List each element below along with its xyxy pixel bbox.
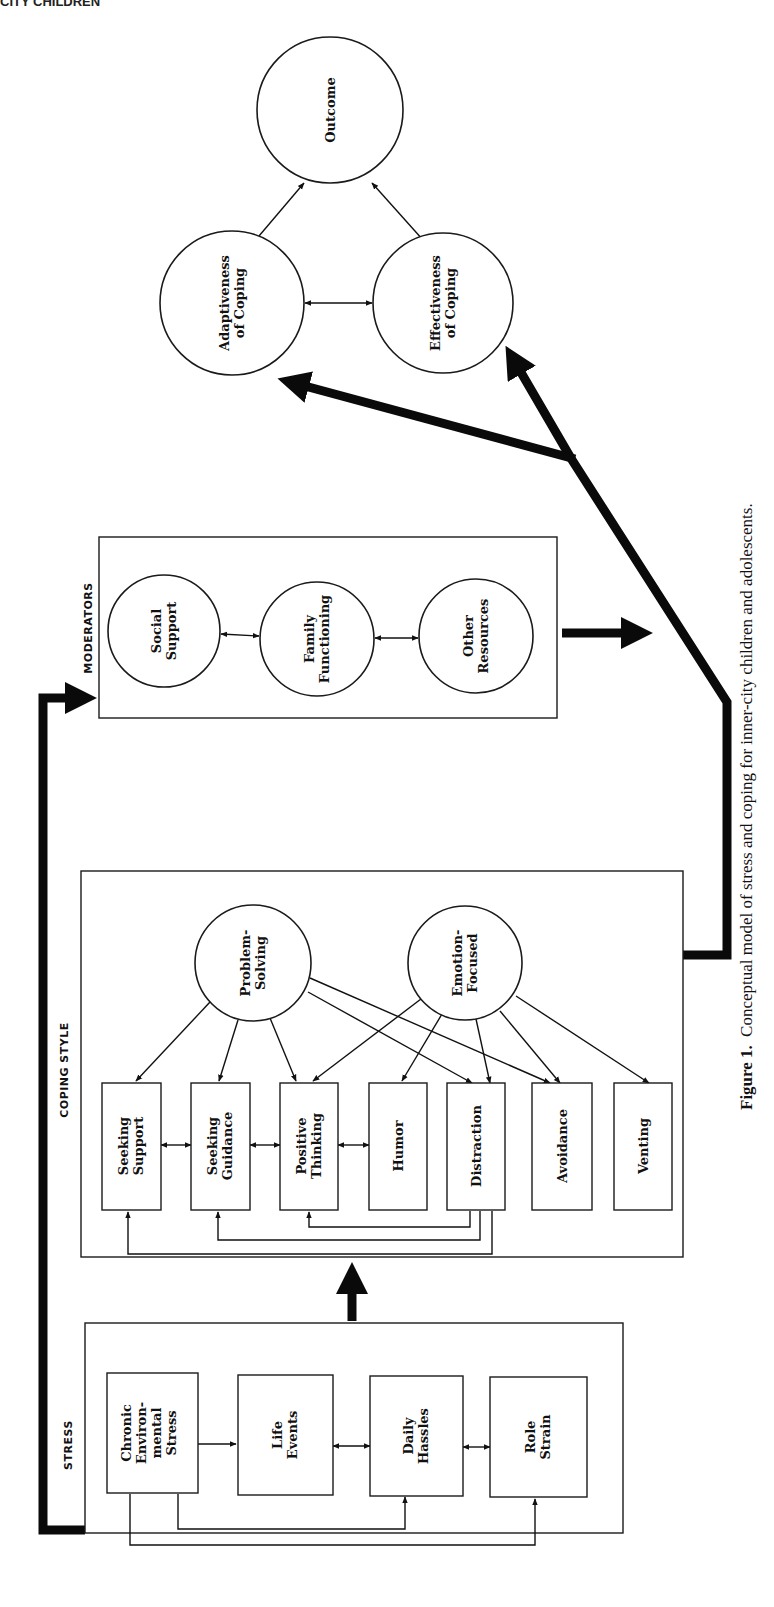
distraction-label: Distraction (469, 1105, 484, 1187)
adaptiveness-label-line2: of Coping (232, 268, 247, 338)
stress-title: STRESS (62, 1420, 75, 1470)
page-header: CITY CHILDREN (0, 0, 100, 9)
venting-label: Venting (636, 1118, 651, 1175)
effectiveness-label-line1: Effectiveness (428, 255, 443, 351)
problem-solving-line2: Solving (253, 936, 268, 990)
social-support-line2: Support (164, 602, 179, 661)
coping-style-title: COPING STYLE (58, 1022, 71, 1118)
svg-text:Figure 1. Conceptual mod: Figure 1. Conceptual model of stress and… (737, 503, 756, 1110)
family-functioning-line2: Functioning (317, 595, 332, 683)
moderators-title: MODERATORS (82, 582, 95, 673)
other-resources-line2: Resources (476, 599, 491, 674)
other-resources-line1: Other (461, 615, 476, 657)
chronic-line1: Chronic (119, 1404, 134, 1462)
daily-hassles-line2: Hassles (416, 1408, 431, 1464)
effectiveness-label-line2: of Coping (443, 268, 458, 338)
life-events-line1: Life (270, 1421, 285, 1449)
conceptual-model-diagram: CITY CHILDREN Outcome Adaptiveness of Co… (0, 0, 774, 1607)
outcome-label: Outcome (323, 77, 338, 142)
positive-thinking-line1: Positive (294, 1117, 309, 1174)
adaptiveness-label-line1: Adaptiveness (217, 255, 232, 352)
problem-solving-line1: Problem- (238, 930, 253, 997)
life-events-line2: Events (285, 1411, 300, 1460)
chronic-line3: mental (149, 1408, 164, 1459)
humor-label: Humor (391, 1120, 406, 1171)
role-strain-line1: Role (523, 1421, 538, 1454)
outcome-group: Outcome Adaptiveness of Coping Effective… (160, 37, 513, 375)
positive-thinking-line2: Thinking (309, 1113, 324, 1179)
coping-style-section: COPING STYLE Problem- Solving Emotion- F… (58, 871, 683, 1257)
emotion-focused-line1: Emotion- (450, 930, 465, 997)
seeking-support-line2: Support (131, 1117, 146, 1176)
avoidance-label: Avoidance (555, 1109, 570, 1184)
figure-caption: Figure 1. Conceptual model of stress and… (737, 503, 756, 1110)
chronic-line2: Environ- (134, 1402, 149, 1464)
family-functioning-line1: Family (302, 614, 317, 663)
stress-section: STRESS Chronic Environ- mental Stress Li… (62, 1323, 623, 1545)
emotion-focused-line2: Focused (465, 933, 480, 992)
caption-label: Figure 1. (737, 1045, 756, 1110)
seeking-guidance-line1: Seeking (205, 1117, 220, 1175)
social-support-line1: Social (149, 609, 164, 653)
caption-text: Conceptual model of stress and coping fo… (737, 503, 756, 1037)
daily-hassles-line1: Daily (401, 1417, 416, 1455)
chronic-line4: Stress (164, 1410, 179, 1455)
role-strain-line2: Strain (538, 1414, 553, 1460)
seeking-guidance-line2: Guidance (220, 1112, 235, 1181)
moderators-section: MODERATORS Social Support Family Functio… (82, 537, 557, 718)
seeking-support-line1: Seeking (116, 1117, 131, 1175)
